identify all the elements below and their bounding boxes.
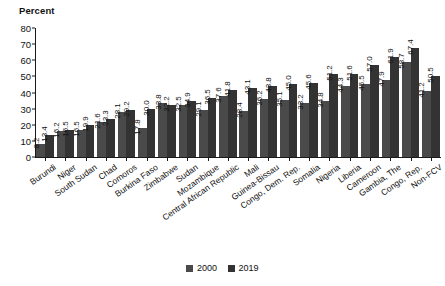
x-axis-tick-mark bbox=[167, 157, 168, 161]
bar-2000: 37.6 bbox=[219, 96, 228, 157]
x-axis-tick-mark bbox=[309, 157, 310, 161]
bar-chart: Percent 010203040506070808.213.416.216.5… bbox=[0, 0, 445, 286]
bar-value-label: 61.9 bbox=[387, 48, 395, 64]
bar-2019: 30.0 bbox=[147, 109, 156, 157]
bar-2000: 17.8 bbox=[138, 128, 147, 157]
bar-2019: 36.5 bbox=[208, 98, 217, 157]
bar-group: 17.830.0 bbox=[138, 28, 155, 157]
x-axis-line bbox=[35, 157, 441, 158]
x-axis-tick-mark bbox=[431, 157, 432, 161]
bar-value-label: 50.5 bbox=[427, 67, 435, 83]
bar-2000: 33.2 bbox=[300, 103, 309, 157]
y-axis-tick-mark bbox=[32, 28, 35, 29]
bar-2019: 32.2 bbox=[167, 105, 176, 157]
y-axis-tick-mark bbox=[32, 44, 35, 45]
bar-value-label: 43.1 bbox=[244, 79, 252, 95]
x-axis-tick-mark bbox=[390, 157, 391, 161]
bar-value-label: 13.4 bbox=[41, 127, 49, 143]
legend-entry: 2000 bbox=[186, 263, 217, 273]
bar-value-label: 57.0 bbox=[366, 56, 374, 72]
bar-value-label: 45.0 bbox=[285, 76, 293, 92]
x-axis-tick-mark bbox=[411, 157, 412, 161]
bar-group: 33.832.2 bbox=[158, 28, 175, 157]
bar-group: 16.519.9 bbox=[77, 28, 94, 157]
bar-2000: 29.1 bbox=[199, 110, 208, 157]
bar-value-label: 29.2 bbox=[123, 101, 131, 117]
bar-2000: 36.2 bbox=[260, 99, 269, 157]
bar-value-label: 45.6 bbox=[305, 75, 313, 91]
x-axis-tick-mark bbox=[45, 157, 46, 161]
legend-swatch-icon bbox=[228, 265, 235, 272]
bar-2019: 50.5 bbox=[431, 76, 440, 157]
x-axis-category-label: Burundi bbox=[28, 162, 58, 187]
bar-value-label: 28.1 bbox=[114, 103, 122, 119]
x-axis-tick-mark bbox=[65, 157, 66, 161]
x-axis-tick-mark bbox=[86, 157, 87, 161]
bar-value-label: 36.2 bbox=[256, 90, 264, 106]
bar-value-label: 23.3 bbox=[102, 111, 110, 127]
bar-value-label: 58.7 bbox=[398, 54, 406, 70]
bar-2000: 32.5 bbox=[179, 105, 188, 157]
y-axis-tick-mark bbox=[32, 92, 35, 93]
bar-value-label: 32.5 bbox=[175, 96, 183, 112]
bar-value-label: 29.1 bbox=[195, 101, 203, 117]
bar-value-label: 34.8 bbox=[317, 92, 325, 108]
chart-legend: 20002019 bbox=[0, 263, 445, 273]
bar-value-label: 51.2 bbox=[326, 66, 334, 82]
bar-value-label: 17.8 bbox=[134, 120, 142, 136]
plot-area: 010203040506070808.213.416.216.516.519.9… bbox=[35, 28, 441, 157]
x-axis-tick-mark bbox=[208, 157, 209, 161]
bar-2000: 47.9 bbox=[382, 80, 391, 157]
bar-group: 47.961.9 bbox=[382, 28, 399, 157]
bar-2019: 67.4 bbox=[411, 48, 420, 157]
bar-group: 35.145.0 bbox=[280, 28, 297, 157]
bar-value-label: 32.2 bbox=[163, 96, 171, 112]
bar-value-label: 19.9 bbox=[82, 116, 90, 132]
bar-2019: 23.3 bbox=[106, 119, 115, 157]
y-axis-tick-mark bbox=[32, 60, 35, 61]
bar-group: 16.216.5 bbox=[57, 28, 74, 157]
bar-group: 45.557.0 bbox=[361, 28, 378, 157]
bar-group: 44.351.6 bbox=[341, 28, 358, 157]
y-axis-tick-mark bbox=[32, 124, 35, 125]
bar-2019: 19.9 bbox=[86, 125, 95, 157]
x-axis-tick-mark bbox=[147, 157, 148, 161]
bar-2019: 41.8 bbox=[228, 90, 237, 157]
bar-value-label: 45.5 bbox=[358, 75, 366, 91]
y-axis-tick-mark bbox=[32, 76, 35, 77]
bar-value-label: 51.6 bbox=[346, 65, 354, 81]
bar-value-label: 36.5 bbox=[204, 89, 212, 105]
x-axis-tick-mark bbox=[370, 157, 371, 161]
chart-axis-title: Percent bbox=[19, 5, 55, 16]
legend-swatch-icon bbox=[186, 265, 193, 272]
x-axis-tick-mark bbox=[106, 157, 107, 161]
bar-2019: 61.9 bbox=[390, 57, 399, 157]
bar-2000: 28.4 bbox=[239, 111, 248, 157]
bar-value-label: 35.1 bbox=[276, 92, 284, 108]
bar-2000: 16.5 bbox=[77, 130, 86, 157]
bar-2000: 21.6 bbox=[97, 122, 106, 157]
x-axis-tick-mark bbox=[350, 157, 351, 161]
bar-value-label: 30.0 bbox=[143, 100, 151, 116]
y-axis-tick-mark bbox=[32, 157, 35, 158]
bar-2000: 35.1 bbox=[280, 100, 289, 157]
bar-group: 28.129.2 bbox=[118, 28, 135, 157]
bar-value-label: 16.2 bbox=[53, 122, 61, 138]
bar-group: 41.250.5 bbox=[422, 28, 439, 157]
bar-2019: 13.4 bbox=[45, 135, 54, 157]
x-axis-tick-mark bbox=[248, 157, 249, 161]
bar-group: 37.641.8 bbox=[219, 28, 236, 157]
bar-value-label: 41.8 bbox=[224, 81, 232, 97]
bar-2000: 58.7 bbox=[402, 62, 411, 157]
bar-2000: 44.3 bbox=[341, 86, 350, 157]
bar-value-label: 43.8 bbox=[265, 78, 273, 94]
x-axis-tick-mark bbox=[289, 157, 290, 161]
y-axis-tick-mark bbox=[32, 108, 35, 109]
bar-group: 32.534.9 bbox=[179, 28, 196, 157]
legend-label: 2000 bbox=[197, 263, 217, 273]
x-axis-tick-mark bbox=[268, 157, 269, 161]
x-axis-tick-mark bbox=[126, 157, 127, 161]
legend-label: 2019 bbox=[239, 263, 259, 273]
x-axis-tick-mark bbox=[228, 157, 229, 161]
x-axis-tick-mark bbox=[187, 157, 188, 161]
